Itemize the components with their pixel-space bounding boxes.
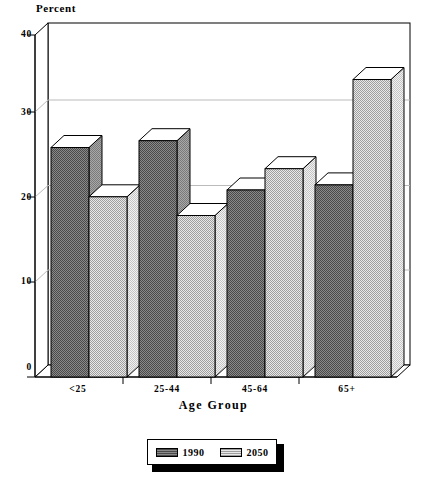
x-axis bbox=[35, 377, 397, 384]
bar-chart: Percent 40 30 20 10 0 <25 25-44 45-64 65… bbox=[0, 0, 427, 479]
bar-2050-65plus[interactable] bbox=[353, 68, 404, 378]
light-hatch-swatch bbox=[220, 448, 242, 457]
plot-left-wall bbox=[35, 23, 48, 377]
bar-2050-under25[interactable] bbox=[89, 185, 140, 377]
legend-entry-1990[interactable]: 1990 bbox=[156, 447, 205, 458]
y-axis bbox=[27, 35, 35, 377]
plot-area bbox=[0, 0, 427, 420]
bar-2050-45-64[interactable] bbox=[265, 157, 316, 377]
legend-entry-2050[interactable]: 2050 bbox=[220, 447, 269, 458]
dark-hatch-swatch bbox=[156, 448, 178, 457]
legend-label-1990: 1990 bbox=[183, 447, 205, 458]
bar-2050-25-44[interactable] bbox=[177, 204, 228, 378]
legend-label-2050: 2050 bbox=[247, 447, 269, 458]
chart-legend: 1990 2050 bbox=[147, 439, 277, 465]
